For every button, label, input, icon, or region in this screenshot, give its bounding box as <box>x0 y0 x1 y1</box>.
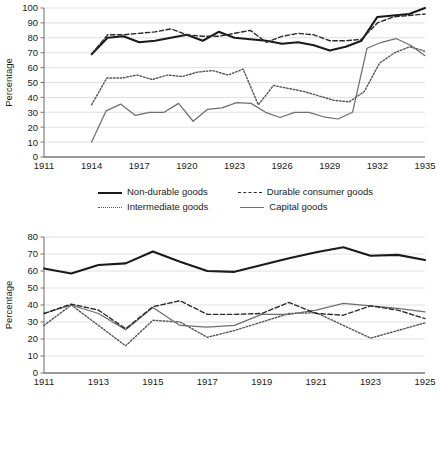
legend-label: Non-durable goods <box>127 186 208 198</box>
series-line-capital-goods <box>92 39 425 143</box>
x-tick-label: 1917 <box>129 160 150 171</box>
y-tick-label: 80 <box>27 32 38 43</box>
y-tick-label: 10 <box>27 350 38 361</box>
series-line-intermediate-goods <box>44 303 425 329</box>
y-tick-label: 20 <box>27 122 38 133</box>
x-tick-label: 1925 <box>414 376 435 387</box>
y-tick-label: 90 <box>27 17 38 28</box>
legend-row: Intermediate goodsCapital goods <box>0 201 443 213</box>
legend-label: Durable consumer goods <box>267 186 373 198</box>
y-tick-label: 20 <box>27 333 38 344</box>
y-tick-label: 50 <box>27 282 38 293</box>
y-tick-label: 70 <box>27 248 38 259</box>
legend-line-key-icon <box>98 202 122 212</box>
series-line-non-durable-goods <box>92 8 425 54</box>
legend-line-key-icon <box>240 202 264 212</box>
y-tick-label: 60 <box>27 265 38 276</box>
y-tick-label: 100 <box>22 2 38 13</box>
x-tick-label: 1920 <box>176 160 197 171</box>
x-tick-label: 1917 <box>197 376 218 387</box>
x-tick-label: 1926 <box>272 160 293 171</box>
y-tick-label: 80 <box>27 231 38 242</box>
legend-item-durable-consumer-goods[interactable]: Durable consumer goods <box>238 186 373 198</box>
y-tick-label: 40 <box>27 92 38 103</box>
plot-area-bottom: 0102030405060708019111913191519171919192… <box>0 225 443 397</box>
y-tick-label: 50 <box>27 77 38 88</box>
legend-line-key-icon <box>98 187 122 197</box>
y-tick-label: 70 <box>27 47 38 58</box>
y-tick-label: 10 <box>27 137 38 148</box>
series-line-intermediate-goods <box>92 47 425 105</box>
x-tick-label: 1911 <box>34 376 54 387</box>
x-tick-label: 1923 <box>360 376 381 387</box>
x-tick-label: 1919 <box>251 376 272 387</box>
y-tick-label: 30 <box>27 107 38 118</box>
x-tick-label: 1915 <box>142 376 163 387</box>
legend-item-non-durable-goods[interactable]: Non-durable goods <box>98 186 208 198</box>
x-tick-label: 1911 <box>34 160 54 171</box>
series-line-non-durable-consumer-goods <box>44 247 425 273</box>
y-tick-label: 60 <box>27 62 38 73</box>
x-tick-label: 1921 <box>306 376 327 387</box>
plot-area-top: 0102030405060708090100191119141917192019… <box>0 0 443 182</box>
chart-panel-top: 0102030405060708090100191119141917192019… <box>0 0 443 225</box>
y-tick-label: 30 <box>27 316 38 327</box>
legend-item-capital-goods[interactable]: Capital goods <box>240 201 327 213</box>
legend-line-key-icon <box>238 187 262 197</box>
two-panel-line-chart-figure: 0102030405060708090100191119141917192019… <box>0 0 443 450</box>
y-tick-label: 40 <box>27 299 38 310</box>
chart-panel-bottom: 0102030405060708019111913191519171919192… <box>0 225 443 450</box>
legend-item-intermediate-goods[interactable]: Intermediate goods <box>98 201 208 213</box>
x-tick-label: 1913 <box>88 376 109 387</box>
line-chart-bottom-svg: 0102030405060708019111913191519171919192… <box>0 225 443 397</box>
x-tick-label: 1935 <box>414 160 435 171</box>
legend-label: Capital goods <box>269 201 327 213</box>
y-axis-title: Percentage <box>3 58 14 107</box>
legend-top: Non-durable goodsDurable consumer goodsI… <box>0 186 443 216</box>
legend-label: Intermediate goods <box>127 201 208 213</box>
x-tick-label: 1914 <box>81 160 102 171</box>
y-axis-title: Percentage <box>3 281 14 330</box>
x-tick-label: 1932 <box>367 160 388 171</box>
legend-row: Non-durable goodsDurable consumer goods <box>0 186 443 198</box>
line-chart-top-svg: 0102030405060708090100191119141917192019… <box>0 0 443 182</box>
x-tick-label: 1923 <box>224 160 245 171</box>
x-tick-label: 1929 <box>319 160 340 171</box>
